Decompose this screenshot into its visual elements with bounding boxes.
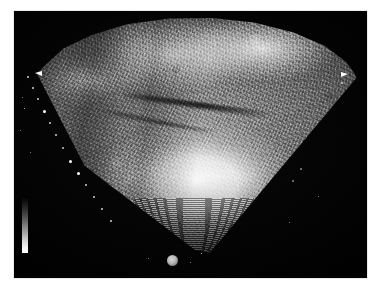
noise-speck [148,258,149,259]
depth-tick [110,220,112,222]
noise-speck [24,108,25,109]
depth-tick [101,208,103,210]
depth-tick [43,110,46,113]
noise-speck [30,152,31,153]
grayscale-reference-bar [22,198,28,253]
ultrasound-page: · · · · · · · · · [0,0,380,290]
depth-tick [27,76,29,78]
depth-tick [85,184,87,186]
depth-tick [62,147,64,149]
depth-tick [300,168,302,170]
sector-scan-wedge [14,11,367,278]
depth-tick [32,87,34,89]
noise-speck [22,97,23,98]
noise-speck [190,262,191,263]
depth-tick [69,160,72,163]
noise-speck [289,222,290,223]
depth-tick [341,82,343,84]
depth-tick [93,196,95,198]
depth-tick [77,172,80,175]
depth-tick [37,98,39,100]
noise-speck [20,130,21,131]
round-orientation-marker [167,255,178,266]
header-strip: · · · · · · · · · [0,0,380,11]
noise-speck [318,196,319,197]
depth-tick [55,134,57,136]
depth-tick [292,180,294,182]
header-residual-text: · · · · · · · · · [100,0,193,10]
depth-tick [49,122,51,124]
acoustic-attenuation-gradient [14,11,367,278]
noise-speck [201,253,202,254]
ultrasound-scan-frame [14,11,367,278]
